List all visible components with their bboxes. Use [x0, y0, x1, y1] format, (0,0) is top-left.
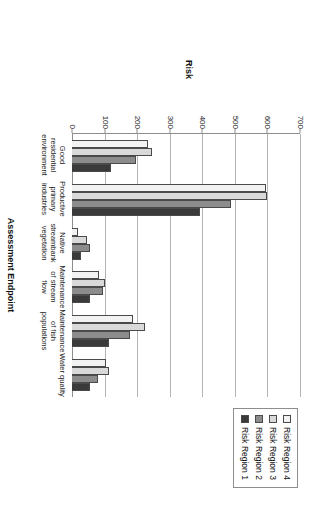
legend-item[interactable]: Risk Region 4 [282, 415, 292, 480]
category-label: Productive primary industries [10, 177, 70, 221]
bar-groups [72, 134, 300, 397]
category-label: Water quality [10, 353, 70, 397]
category-label: Native streambank vegetation [10, 221, 70, 265]
bar[interactable] [72, 236, 87, 244]
legend-label: Risk Region 3 [268, 427, 278, 480]
bar-chart-figure: 0100200300400500600700 Risk Good residen… [0, 0, 314, 529]
bar[interactable] [72, 339, 109, 347]
bar[interactable] [72, 148, 152, 156]
bar[interactable] [72, 252, 81, 260]
bar[interactable] [72, 383, 90, 391]
bar[interactable] [72, 295, 90, 303]
value-tick-label-200: 200 [133, 103, 142, 129]
bar-group [72, 353, 300, 397]
category-axis-title: Assessment Endpoint [6, 133, 16, 397]
value-axis-title: Risk [184, 60, 194, 79]
chart-legend: Risk Region 4Risk Region 3Risk Region 2R… [233, 408, 298, 488]
value-tick-label-500: 500 [230, 103, 239, 129]
value-tick-label-300: 300 [165, 103, 174, 129]
bar[interactable] [72, 228, 78, 236]
scanned-figure-page: 0100200300400500600700 Risk Good residen… [0, 0, 314, 529]
value-tick-label-600: 600 [263, 103, 272, 129]
category-label: Maintenance of fish populations [10, 309, 70, 353]
bar[interactable] [72, 244, 90, 252]
value-axis-line [72, 133, 300, 134]
legend-item[interactable]: Risk Region 3 [268, 415, 278, 480]
bar-group [72, 265, 300, 309]
bar[interactable] [72, 192, 267, 200]
bar[interactable] [72, 279, 105, 287]
legend-item[interactable]: Risk Region 2 [254, 415, 264, 480]
value-tick-label-100: 100 [100, 103, 109, 129]
legend-swatch-icon [283, 415, 291, 423]
bar[interactable] [72, 140, 148, 148]
plot-frame [72, 133, 300, 397]
bar[interactable] [72, 359, 106, 367]
legend-label: Risk Region 4 [282, 427, 292, 480]
bar[interactable] [72, 375, 98, 383]
bar[interactable] [72, 164, 111, 172]
gridline-700 [300, 134, 301, 397]
bar-group [72, 222, 300, 266]
legend-item[interactable]: Risk Region 1 [240, 415, 250, 480]
category-label: Maintenance of stream flow [10, 265, 70, 309]
legend-label: Risk Region 1 [240, 427, 250, 480]
bar[interactable] [72, 156, 136, 164]
value-tick-label-400: 400 [198, 103, 207, 129]
plot-area [72, 133, 300, 397]
legend-swatch-icon [241, 415, 249, 423]
rotated-figure-container: 0100200300400500600700 Risk Good residen… [0, 0, 314, 529]
bar-group [72, 309, 300, 353]
bar[interactable] [72, 331, 130, 339]
bar[interactable] [72, 208, 200, 216]
bar[interactable] [72, 323, 145, 331]
bar-group [72, 178, 300, 222]
legend-swatch-icon [255, 415, 263, 423]
category-axis-labels: Good residential environmentProductive p… [10, 133, 70, 397]
value-tick-label-0: 0 [68, 103, 77, 129]
bar[interactable] [72, 315, 133, 323]
bar[interactable] [72, 200, 231, 208]
category-label: Good residential environment [10, 133, 70, 177]
bar[interactable] [72, 367, 109, 375]
legend-swatch-icon [269, 415, 277, 423]
bar[interactable] [72, 271, 99, 279]
bar[interactable] [72, 287, 103, 295]
bar-group [72, 134, 300, 178]
legend-label: Risk Region 2 [254, 427, 264, 480]
value-tick-label-700: 700 [296, 103, 305, 129]
bar[interactable] [72, 184, 266, 192]
